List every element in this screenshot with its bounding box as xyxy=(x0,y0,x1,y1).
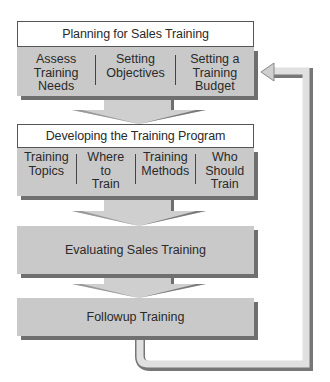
item-training-topics: Training Topics xyxy=(17,148,76,178)
item-training-methods: Training Methods xyxy=(136,148,195,178)
down-arrow-icon xyxy=(72,274,206,298)
stage-title-planning: Planning for Sales Training xyxy=(17,21,254,47)
stage-box-planning: Assess Training Needs Setting Objectives… xyxy=(17,47,254,96)
stage-title-text: Developing the Training Program xyxy=(46,129,226,143)
item-training-budget: Setting a Training Budget xyxy=(176,47,254,94)
item-assess-needs: Assess Training Needs xyxy=(17,47,95,94)
stage-title-text: Evaluating Sales Training xyxy=(65,243,206,257)
item-where-to-train: Where to Train xyxy=(77,148,136,192)
down-arrow-icon xyxy=(72,196,206,226)
stage-title-developing: Developing the Training Program xyxy=(17,124,254,148)
stage-box-followup: Followup Training xyxy=(17,298,254,336)
stage-box-evaluating: Evaluating Sales Training xyxy=(17,226,254,274)
down-arrow-icon xyxy=(72,96,206,124)
stage-title-text: Planning for Sales Training xyxy=(62,27,209,41)
stage-title-text: Followup Training xyxy=(87,310,185,324)
stage-box-developing: Training Topics Where to Train Training … xyxy=(17,148,254,196)
item-setting-objectives: Setting Objectives xyxy=(96,47,174,80)
item-who-should-train: Who Should Train xyxy=(196,148,255,192)
